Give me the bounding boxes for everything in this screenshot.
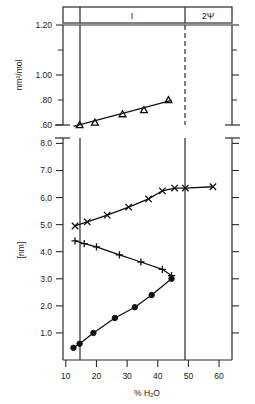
series-line (73, 279, 171, 348)
bottom-y-tick-label: 3.0 (40, 274, 52, 284)
bottom-y-tick-label: 2.0 (40, 301, 52, 311)
bottom-panel: 1.02.03.04.05.06.07.08.0 [nm] 1020304050… (16, 138, 240, 398)
x-tick-label: 30 (122, 371, 132, 381)
bottom-panel-x-ticks (66, 360, 219, 367)
top-series-fit-line (73, 100, 171, 126)
top-panel-series (73, 97, 171, 128)
data-point-plus (81, 240, 88, 247)
top-panel-y-ticks (56, 25, 239, 125)
series-line (75, 187, 213, 226)
data-point-plus (116, 251, 123, 258)
x-tick-label: 50 (184, 371, 194, 381)
x-tick-label: 10 (61, 371, 71, 381)
bottom-panel-series (71, 184, 216, 351)
series-line (75, 241, 172, 276)
top-y-tick-label-100: 1.00 (35, 70, 52, 80)
data-point-plus (137, 258, 144, 265)
data-point-circle (169, 276, 174, 281)
bottom-y-tick-label: 6.0 (40, 193, 52, 203)
x-tick-label: 40 (153, 371, 163, 381)
bottom-y-tick-label: 8.0 (40, 138, 52, 148)
data-point-circle (132, 305, 137, 310)
bottom-y-tick-label: 4.0 (40, 247, 52, 257)
bottom-y-tick-label: 5.0 (40, 220, 52, 230)
data-point-cross (145, 196, 151, 202)
data-point-circle (77, 341, 82, 346)
data-point-circle (91, 330, 96, 335)
bottom-panel-x-tick-labels: 102030405060 (61, 371, 224, 381)
bottom-panel-y-axis-label: [nm] (16, 242, 26, 259)
region-label-one: I (131, 11, 134, 21)
top-y-tick-label-080: .80 (40, 95, 52, 105)
data-point-cross (84, 219, 90, 225)
bottom-panel-y-tick-labels: 1.02.03.04.05.06.07.08.0 (40, 138, 52, 338)
region-label-two: 2Ψ (202, 11, 215, 21)
bottom-y-tick-label: 7.0 (40, 165, 52, 175)
data-point-cross (72, 223, 78, 229)
chart-svg: I 2Ψ (0, 0, 255, 404)
bottom-y-tick-label: 1.0 (40, 328, 52, 338)
figure-container: I 2Ψ (0, 0, 255, 404)
x-axis-label: % H₂O (134, 388, 160, 398)
data-point-plus (159, 266, 166, 273)
top-y-tick-label-120: 1.20 (35, 20, 52, 30)
top-panel-y-axis-label: nm²/mol (14, 60, 24, 91)
data-point-circle (149, 292, 154, 297)
data-point-plus (93, 243, 100, 250)
data-point-circle (112, 315, 117, 320)
top-y-tick-label-060: .60 (40, 120, 52, 130)
data-point-cross (104, 212, 110, 218)
data-point-plus (71, 237, 78, 244)
x-tick-label: 60 (214, 371, 224, 381)
bottom-panel-y-ticks (56, 143, 239, 333)
top-panel: 1.20 1.00 .80 .60 nm²/mol (14, 20, 240, 130)
data-point-circle (71, 345, 76, 350)
x-tick-label: 20 (92, 371, 102, 381)
region-header-band: I 2Ψ (63, 7, 232, 23)
data-point-cross (125, 204, 131, 210)
